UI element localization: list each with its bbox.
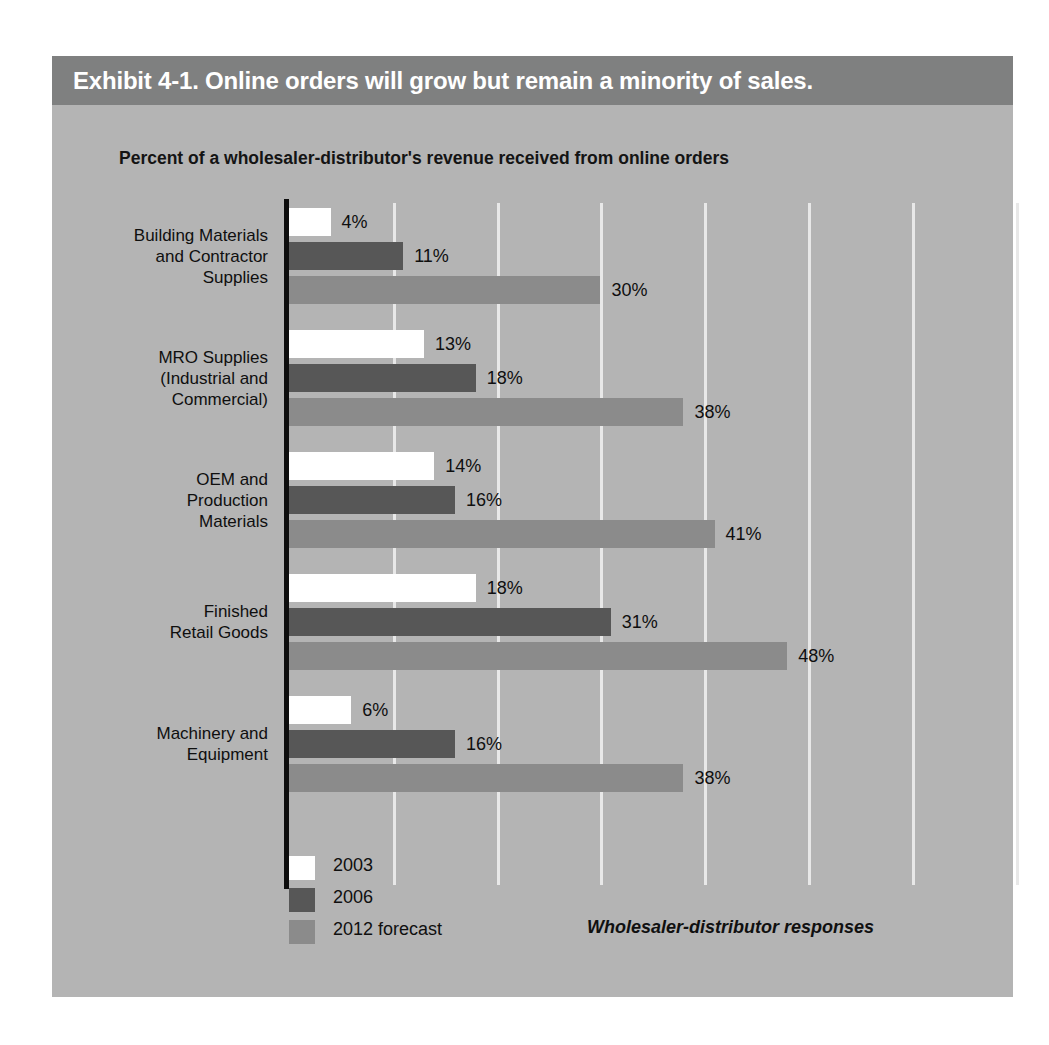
bar-2003 <box>289 574 476 602</box>
bar-value-label: 16% <box>466 486 502 514</box>
bar-2003 <box>289 696 351 724</box>
category-label-line: Production <box>28 490 268 511</box>
category-label-line: Supplies <box>28 267 268 288</box>
legend-swatch <box>289 920 315 944</box>
bar-value-label: 48% <box>798 642 834 670</box>
bar-2006 <box>289 608 611 636</box>
bar-value-label: 31% <box>622 608 658 636</box>
category-label-line: Commercial) <box>28 389 268 410</box>
category-label: MRO Supplies(Industrial andCommercial) <box>28 347 268 410</box>
category-label-line: (Industrial and <box>28 368 268 389</box>
bar-2012-forecast <box>289 398 683 426</box>
bar-value-label: 13% <box>435 330 471 358</box>
gridline <box>912 203 915 885</box>
category-label-line: OEM and <box>28 469 268 490</box>
category-label: OEM andProductionMaterials <box>28 469 268 532</box>
bar-value-label: 6% <box>362 696 388 724</box>
bar-2012-forecast <box>289 520 715 548</box>
bar-value-label: 4% <box>342 208 368 236</box>
bar-value-label: 18% <box>487 574 523 602</box>
bar-value-label: 38% <box>694 764 730 792</box>
legend-label: 2006 <box>333 887 373 908</box>
category-label-line: and Contractor <box>28 246 268 267</box>
bar-value-label: 41% <box>726 520 762 548</box>
bar-2003 <box>289 452 434 480</box>
plot-area: Building Materialsand ContractorSupplies… <box>52 56 1013 997</box>
bar-value-label: 18% <box>487 364 523 392</box>
category-label-line: MRO Supplies <box>28 347 268 368</box>
gridline <box>1016 203 1019 885</box>
category-label: FinishedRetail Goods <box>28 601 268 643</box>
category-label-line: Finished <box>28 601 268 622</box>
bar-2012-forecast <box>289 764 683 792</box>
category-label-line: Building Materials <box>28 225 268 246</box>
legend-swatch <box>289 888 315 912</box>
category-label-line: Equipment <box>28 744 268 765</box>
gridline <box>808 203 811 885</box>
category-label-line: Machinery and <box>28 723 268 744</box>
bar-value-label: 16% <box>466 730 502 758</box>
bar-2006 <box>289 364 476 392</box>
bar-value-label: 38% <box>694 398 730 426</box>
source-note: Wholesaler-distributor responses <box>587 917 874 938</box>
bar-value-label: 30% <box>611 276 647 304</box>
category-label-line: Materials <box>28 511 268 532</box>
category-label-line: Retail Goods <box>28 622 268 643</box>
legend-label: 2012 forecast <box>333 919 442 940</box>
category-label: Machinery andEquipment <box>28 723 268 765</box>
legend-swatch <box>289 856 315 880</box>
bar-value-label: 14% <box>445 452 481 480</box>
bar-2006 <box>289 730 455 758</box>
exhibit-panel: Exhibit 4-1. Online orders will grow but… <box>52 56 1013 997</box>
bar-2012-forecast <box>289 642 787 670</box>
bar-2003 <box>289 208 331 236</box>
bar-2006 <box>289 242 403 270</box>
bar-2006 <box>289 486 455 514</box>
bar-value-label: 11% <box>414 242 449 270</box>
bar-2012-forecast <box>289 276 600 304</box>
bar-2003 <box>289 330 424 358</box>
legend-label: 2003 <box>333 855 373 876</box>
category-label: Building Materialsand ContractorSupplies <box>28 225 268 288</box>
